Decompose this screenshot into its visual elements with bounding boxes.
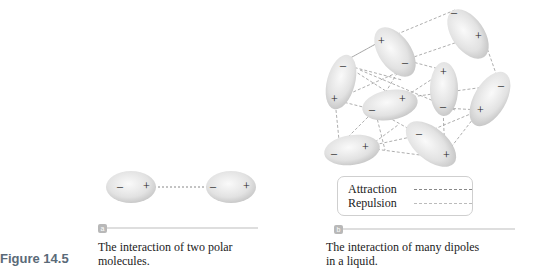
- charge-positive: +: [362, 140, 369, 154]
- panel-b-caption: The interaction of many dipoles in a liq…: [326, 240, 479, 268]
- charge-positive: +: [331, 92, 338, 106]
- panel-a-tag: a: [98, 224, 107, 233]
- attraction-line-swatch: [414, 189, 472, 190]
- panel-a-caption-line1: The interaction of two polar: [98, 240, 233, 254]
- charge-negative: –: [210, 179, 216, 193]
- panel-a-caption: The interaction of two polar molecules.: [98, 240, 233, 268]
- figure-label: Figure 14.5: [0, 251, 69, 266]
- panel-b-caption-line2: in a liquid.: [326, 254, 479, 268]
- charge-negative: –: [402, 55, 408, 69]
- charge-positive: +: [399, 92, 406, 106]
- charge-negative: –: [451, 5, 457, 19]
- legend-attraction-label: Attraction: [348, 182, 414, 197]
- panel-a-caption-line2: molecules.: [98, 254, 233, 268]
- charge-negative: –: [369, 102, 375, 116]
- charge-negative: –: [416, 126, 422, 140]
- legend-repulsion: Repulsion: [348, 196, 472, 210]
- charge-negative: –: [498, 78, 504, 92]
- charge-positive: +: [477, 103, 484, 117]
- dipole-diagram: [0, 0, 533, 274]
- charge-positive: +: [475, 29, 482, 43]
- charge-negative: –: [117, 179, 123, 193]
- charge-negative: –: [331, 146, 337, 160]
- charge-positive: +: [443, 148, 450, 162]
- panel-b-caption-line1: The interaction of many dipoles: [326, 240, 479, 254]
- panel-a-molecules: [106, 171, 256, 203]
- legend-repulsion-label: Repulsion: [348, 196, 414, 211]
- panel-b-tag: b: [334, 225, 343, 234]
- charge-negative: –: [340, 58, 346, 72]
- legend: Attraction Repulsion: [337, 176, 473, 216]
- charge-positive: +: [143, 179, 150, 193]
- charge-negative: –: [440, 99, 446, 113]
- legend-attraction: Attraction: [348, 182, 472, 196]
- charge-positive: +: [378, 34, 385, 48]
- charge-positive: +: [440, 65, 447, 79]
- repulsion-line-swatch: [414, 203, 472, 204]
- panel-b-molecules: [320, 2, 519, 176]
- charge-positive: +: [243, 179, 250, 193]
